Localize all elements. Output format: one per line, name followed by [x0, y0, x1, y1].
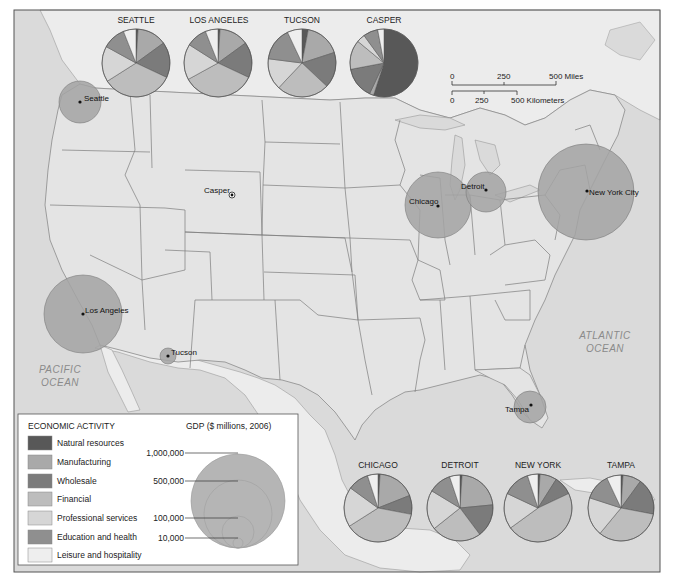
city-label-tucson: Tucson [171, 348, 197, 357]
pie-title-seattle: SEATTLE [117, 15, 154, 25]
pacific-ocean-label-2: OCEAN [41, 377, 79, 388]
legend: ECONOMIC ACTIVITY GDP ($ millions, 2006)… [18, 414, 298, 565]
pie-title-chicago: CHICAGO [358, 460, 398, 470]
pie-tampa [588, 475, 654, 541]
pie-title-detroit: DETROIT [441, 460, 478, 470]
legend-swatch-professional-services [28, 511, 52, 525]
scale-miles-500: 500 Miles [549, 72, 583, 81]
pie-tucson [268, 29, 336, 97]
city-label-casper: Casper [204, 186, 230, 195]
legend-swatch-education-health [28, 530, 52, 544]
pie-title-tampa: TAMPA [607, 460, 635, 470]
legend-label-leisure-hospitality: Leisure and hospitality [57, 550, 142, 560]
city-label-los-angeles: Los Angeles [85, 306, 129, 315]
economic-activity-map: Seattle Los Angeles Tucson Casper Chicag… [0, 0, 674, 584]
legend-label-education-health: Education and health [57, 532, 137, 542]
city-label-chicago: Chicago [409, 197, 439, 206]
city-dot-casper [231, 194, 234, 197]
gdp-label-1000000: 1,000,000 [146, 448, 184, 458]
gdp-label-10000: 10,000 [158, 533, 184, 543]
city-dot-tampa [529, 403, 532, 406]
pie-detroit [427, 475, 493, 541]
scale-miles-0: 0 [450, 72, 455, 81]
city-dot-seattle [78, 100, 81, 103]
pie-title-tucson: TUCSON [284, 15, 320, 25]
pie-seattle [102, 29, 170, 97]
pie-chicago [344, 474, 412, 542]
city-label-seattle: Seattle [84, 94, 109, 103]
legend-swatch-leisure-hospitality [28, 548, 52, 562]
scale-miles-250: 250 [497, 72, 511, 81]
pie-title-new-york: NEW YORK [515, 460, 561, 470]
city-dot-tucson [166, 354, 169, 357]
gdp-scale-circle-1000000 [191, 454, 285, 548]
legend-swatch-manufacturing [28, 455, 52, 469]
pie-title-casper: CASPER [367, 15, 402, 25]
city-dot-detroit [484, 188, 487, 191]
legend-swatch-financial [28, 492, 52, 506]
pacific-ocean-label-1: PACIFIC [39, 364, 81, 375]
atlantic-ocean-label-2: OCEAN [586, 343, 624, 354]
pie-casper [350, 29, 418, 97]
legend-label-professional-services: Professional services [57, 513, 137, 523]
pie-new-york [504, 474, 572, 542]
gdp-label-100000: 100,000 [153, 513, 184, 523]
atlantic-ocean-label-1: ATLANTIC [578, 330, 631, 341]
city-label-detroit: Detroit [461, 182, 485, 191]
gdp-title: GDP ($ millions, 2006) [186, 421, 272, 431]
gdp-label-500000: 500,000 [153, 476, 184, 486]
city-label-new-york: New York City [589, 188, 639, 197]
gdp-circle-detroit[interactable] [466, 172, 506, 212]
legend-label-financial: Financial [57, 494, 91, 504]
city-label-tampa: Tampa [505, 405, 530, 414]
legend-label-wholesale: Wholesale [57, 476, 97, 486]
pie-los-angeles [184, 29, 252, 97]
legend-label-manufacturing: Manufacturing [57, 457, 111, 467]
scale-km-250: 250 [475, 96, 489, 105]
legend-swatch-natural-resources [28, 436, 52, 450]
scale-km-0: 0 [450, 96, 455, 105]
legend-swatch-wholesale [28, 474, 52, 488]
legend-label-natural-resources: Natural resources [57, 438, 124, 448]
pie-title-los-angeles: LOS ANGELES [189, 15, 248, 25]
legend-title: ECONOMIC ACTIVITY [28, 421, 115, 431]
scale-km-500: 500 Kilometers [511, 96, 564, 105]
